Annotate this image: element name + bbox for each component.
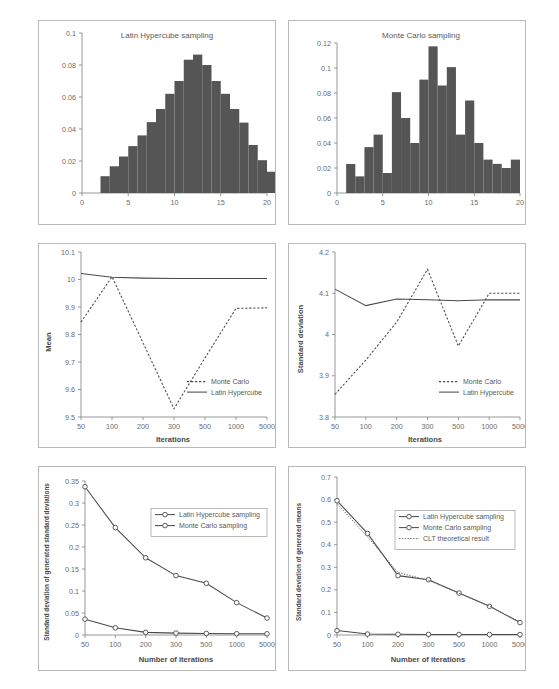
histogram-bar xyxy=(438,86,447,194)
chart-stddev-of-generated-means: Standard deviation of generated means Nu… xyxy=(289,467,525,670)
histogram-bar xyxy=(355,176,364,193)
legend: Latin Hypercube samplingMonte Carlo samp… xyxy=(395,511,515,550)
x-tick-label: 5 xyxy=(381,198,385,207)
y-tick-label: 0.05 xyxy=(65,609,79,618)
chart-mean-convergence: Mean Iterations 9.59.69.79.89.91010.1 50… xyxy=(39,244,275,447)
data-point-marker xyxy=(234,600,239,605)
x-tick-label: 500 xyxy=(452,422,464,431)
y-tick-label: 0.1 xyxy=(321,64,331,73)
x-tick-label: 1000 xyxy=(228,422,244,431)
x-tick-label: 1000 xyxy=(229,640,245,649)
data-point-marker xyxy=(365,632,370,637)
legend-label: Latin Hypercube xyxy=(463,389,514,397)
legend-label: Latin Hypercube sampling xyxy=(179,511,260,519)
x-tick-label: 15 xyxy=(470,198,478,207)
x-axis-label: Number of iterations xyxy=(139,655,213,664)
x-tick-label: 10 xyxy=(425,198,433,207)
data-point-marker xyxy=(396,573,401,578)
chart-stddev-convergence: Standard deviation Iterations 3.83.944.1… xyxy=(289,244,525,447)
y-axis-label: Mean xyxy=(44,332,53,352)
data-point-marker xyxy=(83,617,88,622)
histogram-bar xyxy=(202,65,211,193)
y-tick-label: 0.1 xyxy=(66,29,76,38)
x-tick-label: 200 xyxy=(140,640,152,649)
legend-label: Monte Carlo sampling xyxy=(423,524,491,532)
chart-title: Monte Carlo sampling xyxy=(382,31,460,40)
series-line xyxy=(335,289,520,306)
y-tick-label: 9.5 xyxy=(65,413,75,422)
histogram-bar xyxy=(447,67,456,193)
y-tick-label: 0.7 xyxy=(321,473,331,482)
x-tick-label: 100 xyxy=(362,640,374,649)
panel-stddev-of-means: Standard deviation of generated means Nu… xyxy=(288,466,526,671)
data-point-marker xyxy=(204,631,209,636)
data-point-marker xyxy=(487,604,492,609)
y-tick-label: 9.8 xyxy=(65,330,75,339)
y-tick-label: 0.04 xyxy=(317,139,331,148)
data-point-marker xyxy=(335,628,340,633)
x-tick-label: 300 xyxy=(422,422,434,431)
legend-marker xyxy=(163,512,168,517)
histogram-bar xyxy=(456,135,465,193)
histogram-bar xyxy=(212,81,221,193)
y-tick-label: 0.04 xyxy=(62,125,76,134)
data-point-marker xyxy=(113,525,118,530)
y-axis-ticks: 00.020.040.060.080.10.12 xyxy=(317,39,337,198)
histogram-bar xyxy=(465,101,474,194)
y-axis-ticks: 3.83.944.14.2 xyxy=(319,248,335,422)
y-tick-label: 4.2 xyxy=(319,248,329,257)
x-tick-label: 50 xyxy=(331,422,339,431)
data-point-marker xyxy=(457,632,462,637)
y-tick-label: 9.6 xyxy=(65,385,75,394)
legend-label: Latin Hypercube xyxy=(211,389,262,397)
data-point-marker xyxy=(518,632,523,637)
histogram-bar xyxy=(483,160,492,193)
histogram-bars xyxy=(346,46,520,193)
data-point-marker xyxy=(396,632,401,637)
y-tick-label: 0.2 xyxy=(69,543,79,552)
x-tick-label: 5000 xyxy=(512,422,525,431)
y-tick-label: 0.5 xyxy=(321,518,331,527)
chart-mc-histogram: Monte Carlo sampling 00.020.040.060.080.… xyxy=(289,21,525,224)
y-tick-label: 0.1 xyxy=(321,608,331,617)
legend-marker xyxy=(163,523,168,528)
legend-marker xyxy=(407,514,412,519)
histogram-bar xyxy=(474,143,483,193)
histogram-bar xyxy=(147,122,156,193)
histogram-bar xyxy=(193,55,202,193)
y-tick-label: 0.02 xyxy=(62,157,76,166)
chart-stddev-of-generated-stddevs: Standard deviation of generated standard… xyxy=(39,467,275,670)
legend-label: Monte Carlo xyxy=(463,378,501,385)
x-tick-label: 1000 xyxy=(481,422,497,431)
x-tick-label: 20 xyxy=(516,198,524,207)
y-tick-label: 0 xyxy=(327,189,331,198)
x-tick-label: 0 xyxy=(335,198,339,207)
histogram-bar xyxy=(156,109,165,193)
y-axis-ticks: 9.59.69.79.89.91010.1 xyxy=(61,248,81,422)
y-tick-label: 0 xyxy=(327,631,331,640)
data-point-marker xyxy=(174,631,179,636)
series-line xyxy=(81,273,267,278)
histogram-bar xyxy=(346,164,355,193)
data-point-marker xyxy=(143,555,148,560)
chart-title: Latin Hypercube sampling xyxy=(121,31,214,40)
y-tick-label: 10 xyxy=(67,275,75,284)
x-axis-ticks: 05101520 xyxy=(80,193,271,207)
y-axis-ticks: 00.10.20.30.40.50.60.7 xyxy=(321,473,337,640)
y-tick-label: 0.06 xyxy=(317,114,331,123)
y-tick-label: 0.4 xyxy=(321,540,331,549)
y-axis-label: Standard deviation of generated means xyxy=(295,503,303,621)
histogram-bar xyxy=(249,145,258,193)
x-tick-label: 100 xyxy=(109,640,121,649)
x-tick-label: 50 xyxy=(77,422,85,431)
x-axis-ticks: 5010020030050010005000 xyxy=(77,417,275,431)
y-tick-label: 0.08 xyxy=(62,61,76,70)
x-tick-label: 50 xyxy=(81,640,89,649)
x-axis-ticks: 5010020030050010005000 xyxy=(331,417,525,431)
x-tick-label: 200 xyxy=(392,640,404,649)
histogram-bar xyxy=(101,176,110,193)
histogram-bar xyxy=(184,60,193,193)
x-tick-label: 300 xyxy=(168,422,180,431)
panel-mean-convergence: Mean Iterations 9.59.69.79.89.91010.1 50… xyxy=(38,243,276,448)
y-tick-label: 0.08 xyxy=(317,89,331,98)
